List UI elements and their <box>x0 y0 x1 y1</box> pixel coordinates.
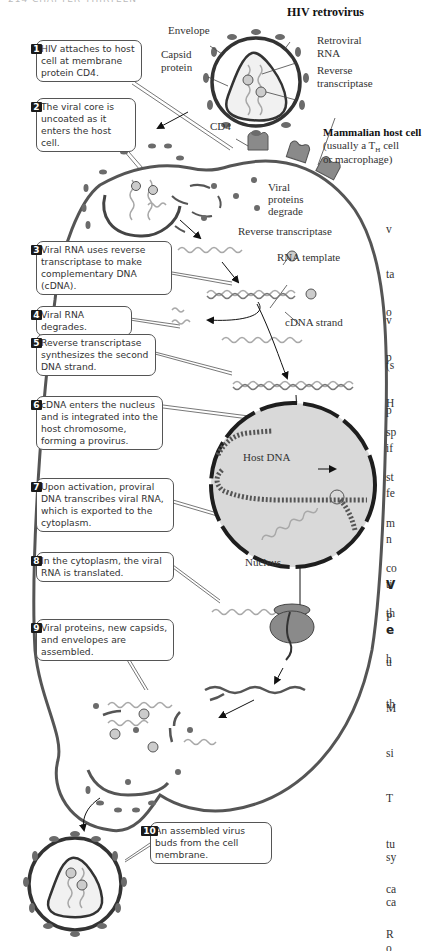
step-3-callout: 3Viral RNA uses reverse transcriptase to… <box>36 241 172 295</box>
step-3-text: Viral RNA uses reverse transcriptase to … <box>41 244 145 291</box>
text-fragment: p <box>386 350 395 365</box>
label-viral-proteins-3: degrade <box>268 205 303 218</box>
text-fragment: sp <box>386 425 397 440</box>
text-fragment: o <box>386 305 395 320</box>
step-2-callout: 2The viral core is uncoated as it enters… <box>36 98 136 152</box>
title-hiv-retrovirus: HIV retrovirus <box>287 6 364 19</box>
right-column-para-5: sy ca o tv (i fr fa ca <box>386 820 396 951</box>
label-envelope: Envelope <box>168 24 210 37</box>
step-1-number: 1 <box>31 44 42 54</box>
label-reverse-transcriptase-1: Reverse <box>317 64 352 77</box>
text-fragment: sy <box>386 850 396 865</box>
label-rna-template: RNA template <box>277 251 340 264</box>
step-4-callout: 4Viral RNA degrades. <box>36 306 132 336</box>
text-fragment: st <box>386 470 397 485</box>
step-2-text: The viral core is uncoated as it enters … <box>41 101 114 148</box>
step-4-number: 4 <box>31 310 42 320</box>
step-9-number: 9 <box>31 623 42 633</box>
step-7-text: Upon activation, proviral DNA transcribe… <box>41 481 164 528</box>
host-cell-sub-end: cell <box>380 139 399 151</box>
text-fragment: o <box>386 941 396 951</box>
step-4-text: Viral RNA degrades. <box>41 309 87 332</box>
text-fragment: M <box>386 701 396 716</box>
text-fragment: m <box>386 516 397 531</box>
step-7-callout: 7Upon activation, proviral DNA transcrib… <box>36 478 174 532</box>
step-5-callout: 5Reverse transcriptase synthesizes the s… <box>36 334 156 376</box>
step-8-callout: 8In the cytoplasm, the viral RNA is tran… <box>36 552 174 582</box>
label-cd4: CD4 <box>210 120 231 133</box>
step-6-number: 6 <box>31 400 42 410</box>
label-nucleus: Nucleus <box>245 556 281 569</box>
text-fragment: ca <box>386 895 396 910</box>
label-viral-proteins-2: proteins <box>268 193 303 206</box>
step-10-callout: 10An assembled virus buds from the cell … <box>150 822 272 864</box>
label-reverse-transcriptase-inline: Reverse transcriptase <box>238 225 332 238</box>
host-cell-sub-text: (usually a T <box>323 139 375 151</box>
label-reverse-transcriptase-2: transcriptase <box>317 77 373 90</box>
text-fragment: si <box>386 746 396 761</box>
label-host-dna: Host DNA <box>243 451 290 464</box>
text-fragment: u <box>386 655 396 670</box>
text-fragment: v <box>386 222 394 237</box>
step-9-callout: 9Viral proteins, new capsids, and envelo… <box>36 619 174 661</box>
step-6-callout: 6cDNA enters the nucleus and is integrat… <box>36 396 163 450</box>
step-10-number: 10 <box>141 826 158 836</box>
label-viral-proteins-1: Viral <box>268 181 290 194</box>
label-retroviral-rna-2: RNA <box>317 47 340 60</box>
step-10-text: An assembled virus buds from the cell me… <box>155 825 245 860</box>
step-6-text: cDNA enters the nucleus and is integrate… <box>41 399 158 446</box>
step-7-number: 7 <box>31 482 42 492</box>
text-fragment: T <box>386 791 396 806</box>
text-fragment: P <box>386 610 396 625</box>
host-cell-subtitle-2: or macrophage) <box>323 153 392 166</box>
step-8-number: 8 <box>31 556 42 566</box>
hiv-virus-bottom <box>23 831 127 937</box>
step-3-number: 3 <box>31 245 42 255</box>
step-9-text: Viral proteins, new capsids, and envelop… <box>41 622 167 657</box>
step-1-text: HIV attaches to host cell at membrane pr… <box>41 43 135 78</box>
label-cdna-strand: cDNA strand <box>285 316 343 329</box>
step-5-text: Reverse transcriptase synthesizes the se… <box>41 337 148 372</box>
step-8-text: In the cytoplasm, the viral RNA is trans… <box>41 555 162 578</box>
label-capsid-1: Capsid <box>161 48 192 61</box>
step-2-number: 2 <box>31 102 42 112</box>
nucleus <box>211 403 375 567</box>
title-mammalian-host-cell: Mammalian host cell <box>323 126 421 139</box>
step-5-number: 5 <box>31 338 42 348</box>
label-capsid-2: protein <box>161 61 192 74</box>
step-1-callout: 1HIV attaches to host cell at membrane p… <box>36 40 142 82</box>
label-retroviral-rna-1: Retroviral <box>317 34 362 47</box>
